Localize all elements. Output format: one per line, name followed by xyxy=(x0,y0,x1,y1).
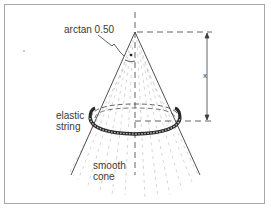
smooth-cone-label-line1: smooth xyxy=(93,160,126,171)
smooth-cone-label-line2: cone xyxy=(93,171,115,182)
cone-right-edge xyxy=(135,32,200,175)
cone-diagram xyxy=(0,0,271,215)
stray-mark xyxy=(23,50,25,52)
elastic-string-label-line2: string xyxy=(56,121,80,132)
elastic-string-label-line1: elastic xyxy=(56,110,84,121)
angle-label: arctan 0.50 xyxy=(64,24,114,35)
angle-marker xyxy=(98,35,135,62)
cone-left-edge xyxy=(71,32,135,175)
angle-leader-line xyxy=(98,35,124,56)
dimension-x-label: x xyxy=(203,70,207,81)
